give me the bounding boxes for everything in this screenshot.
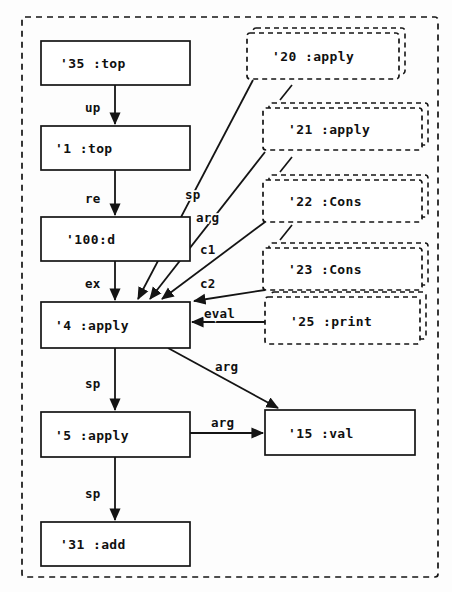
edge-label-sp-20-text: sp — [185, 187, 200, 202]
connector-22-23 — [280, 225, 292, 240]
node-22-cons-label: '22 :Cons — [288, 194, 362, 209]
edge-label-arg-21: arg — [196, 210, 219, 225]
node-4-apply[interactable]: '4 :apply — [41, 302, 190, 348]
edge-c2-23-line — [194, 290, 265, 301]
node-35-top[interactable]: '35 :top — [41, 41, 190, 85]
node-5-apply-label: '5 :apply — [55, 428, 129, 443]
node-21-apply[interactable]: '21 :apply — [263, 103, 428, 150]
edge-label-c1-text: c1 — [200, 242, 215, 257]
edge-label-sp-4-5: sp — [85, 376, 100, 391]
edge-label-up-text: up — [85, 100, 100, 115]
node-23-cons-label: '23 :Cons — [288, 262, 362, 277]
node-31-add-label: '31 :add — [60, 537, 126, 552]
edge-label-arg-4-15-text: arg — [215, 359, 238, 374]
node-1-top-label: '1 :top — [55, 141, 113, 156]
edge-label-arg-21-text: arg — [196, 210, 219, 225]
edge-label-c1: c1 — [200, 242, 215, 257]
node-35-top-label: '35 :top — [60, 56, 126, 71]
edge-label-sp-20: sp — [185, 187, 200, 202]
edge-label-eval: eval — [204, 306, 235, 321]
node-25-print-label: '25 :print — [290, 314, 372, 329]
node-100-d-box — [41, 217, 190, 261]
edge-label-ex: ex — [85, 276, 101, 291]
edge-label-sp-5-31: sp — [85, 486, 100, 501]
node-100-d-label: '100:d — [66, 232, 115, 247]
edge-label-re: re — [85, 191, 101, 206]
edge-label-arg-5-15: arg — [211, 415, 234, 430]
edge-label-eval-text: eval — [204, 306, 235, 321]
node-100-d[interactable]: '100:d — [41, 217, 190, 261]
diagram-root: '20 :apply '21 :apply '22 :Cons '23 :Con… — [0, 0, 452, 592]
node-23-cons[interactable]: '23 :Cons — [263, 243, 428, 290]
node-5-apply[interactable]: '5 :apply — [41, 412, 190, 457]
edge-label-arg-4-15: arg — [215, 359, 238, 374]
edge-label-sp-5-31-text: sp — [85, 486, 100, 501]
node-21-apply-label: '21 :apply — [288, 122, 370, 137]
connector-21-22 — [280, 157, 292, 172]
node-4-apply-label: '4 :apply — [55, 318, 129, 333]
node-25-print[interactable]: '25 :print — [265, 292, 426, 344]
node-20-apply-label: '20 :apply — [272, 49, 354, 64]
graph-canvas: '20 :apply '21 :apply '22 :Cons '23 :Con… — [0, 0, 452, 592]
node-15-val-label: '15 :val — [288, 426, 354, 441]
node-31-add[interactable]: '31 :add — [41, 522, 190, 566]
edge-label-c2: c2 — [200, 276, 215, 291]
edge-arg-4-15-line — [168, 348, 278, 408]
edge-label-ex-text: ex — [85, 276, 101, 291]
node-15-val[interactable]: '15 :val — [265, 410, 415, 455]
node-20-apply[interactable]: '20 :apply — [247, 28, 405, 79]
edge-label-re-text: re — [85, 191, 101, 206]
edge-label-c2-text: c2 — [200, 276, 215, 291]
edge-label-sp-4-5-text: sp — [85, 376, 100, 391]
node-22-cons[interactable]: '22 :Cons — [263, 175, 428, 222]
connector-20-21 — [280, 85, 292, 100]
node-1-top[interactable]: '1 :top — [41, 126, 190, 170]
edge-label-up: up — [85, 100, 100, 115]
edge-label-arg-5-15-text: arg — [211, 415, 234, 430]
